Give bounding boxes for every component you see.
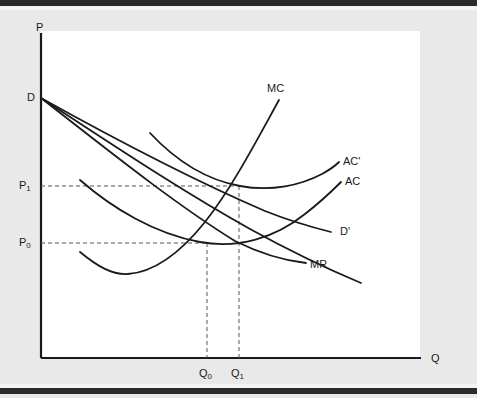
x-axis-label: Q	[431, 353, 440, 364]
diagram-canvas	[0, 0, 477, 398]
demand-origin-label: D	[27, 92, 35, 103]
curve-label-d-prime: D'	[340, 226, 350, 237]
quantity-tick-q0-subscript: 0	[208, 372, 212, 381]
curve-label-ac: AC	[345, 176, 360, 187]
quantity-tick-q1-base: Q	[231, 367, 240, 379]
curve-demand-d	[41, 98, 361, 283]
price-tick-p1-subscript: 1	[26, 184, 30, 193]
quantity-tick-q1-subscript: 1	[240, 372, 244, 381]
curve-label-mc: MC	[267, 83, 284, 94]
curve-label-mr: MR	[310, 259, 327, 270]
y-axis-label: P	[36, 22, 43, 33]
quantity-tick-q0-base: Q	[199, 367, 208, 379]
quantity-tick-q1: Q1	[231, 368, 244, 379]
price-tick-p1: P1	[19, 180, 31, 191]
price-tick-p0-subscript: 0	[26, 241, 30, 250]
quantity-tick-q0: Q0	[199, 368, 212, 379]
figure-page: P Q D P1 P0 Q0 Q1 MC AC' AC D' MR	[0, 0, 477, 398]
curve-label-ac-prime: AC'	[343, 156, 360, 167]
curve-average-cost	[80, 180, 341, 244]
curve-demand-d-prime	[41, 98, 331, 232]
price-tick-p0: P0	[19, 237, 31, 248]
